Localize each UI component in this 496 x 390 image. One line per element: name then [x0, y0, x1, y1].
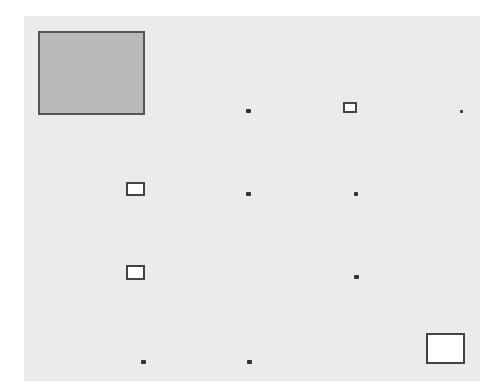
dot-marker: [354, 192, 358, 196]
dot-marker: [246, 192, 251, 196]
game-canvas[interactable]: [0, 0, 496, 390]
dot-marker: [246, 109, 251, 113]
dot-marker: [141, 360, 146, 364]
target-box[interactable]: [126, 182, 145, 196]
dot-marker: [354, 275, 359, 279]
target-box[interactable]: [126, 265, 145, 280]
dot-marker: [247, 360, 252, 364]
target-box[interactable]: [426, 333, 465, 364]
target-box[interactable]: [343, 102, 357, 113]
dot-marker: [460, 110, 463, 113]
player-block[interactable]: [38, 31, 145, 115]
